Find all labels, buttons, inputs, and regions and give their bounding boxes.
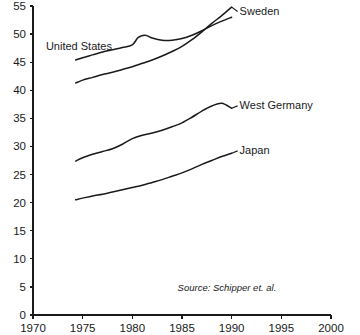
y-tick-label: 0 xyxy=(20,309,26,321)
series-label-united-states: United States xyxy=(46,40,113,52)
y-axis: 0510152025303540455055 xyxy=(13,0,33,321)
y-tick-label: 10 xyxy=(13,253,26,265)
y-tick-label: 5 xyxy=(20,281,26,293)
y-tick-group: 0510152025303540455055 xyxy=(13,0,33,321)
series-label-west-germany: West Germany xyxy=(240,99,314,111)
x-tick-label: 1985 xyxy=(169,322,195,334)
y-tick-label: 40 xyxy=(13,84,26,96)
annotation-group: Source: Schipper et. al. xyxy=(178,282,277,293)
y-tick-label: 50 xyxy=(13,28,26,40)
series-line-japan xyxy=(76,153,232,200)
x-tick-label: 1980 xyxy=(120,322,146,334)
series-label-japan: Japan xyxy=(240,144,270,156)
line-chart: 0510152025303540455055 19701975198019851… xyxy=(0,0,360,335)
chart-container: 0510152025303540455055 19701975198019851… xyxy=(0,0,360,335)
y-tick-label: 35 xyxy=(13,112,26,124)
y-tick-label: 30 xyxy=(13,140,26,152)
series-label-sweden: Sweden xyxy=(240,5,280,17)
x-tick-label: 1990 xyxy=(219,322,245,334)
series-label-group: United StatesSwedenWest GermanyJapan xyxy=(46,5,313,156)
x-axis: 1970197519801985199019952000 xyxy=(20,315,344,334)
leader-line-west-germany xyxy=(232,106,238,108)
x-tick-label: 1995 xyxy=(269,322,295,334)
series-line-west-germany xyxy=(76,103,232,161)
y-tick-label: 45 xyxy=(13,56,26,68)
y-tick-label: 55 xyxy=(13,0,26,12)
source-note: Source: Schipper et. al. xyxy=(178,282,277,293)
y-tick-label: 15 xyxy=(13,225,26,237)
x-tick-label: 2000 xyxy=(318,322,344,334)
y-tick-label: 25 xyxy=(13,169,26,181)
leader-line-japan xyxy=(232,151,238,153)
x-tick-group: 1970197519801985199019952000 xyxy=(20,315,344,334)
y-tick-label: 20 xyxy=(13,197,26,209)
leader-line-sweden xyxy=(232,7,238,11)
series-line-united-states xyxy=(76,17,232,60)
series-group xyxy=(76,7,232,200)
x-tick-label: 1970 xyxy=(20,322,46,334)
x-tick-label: 1975 xyxy=(70,322,96,334)
